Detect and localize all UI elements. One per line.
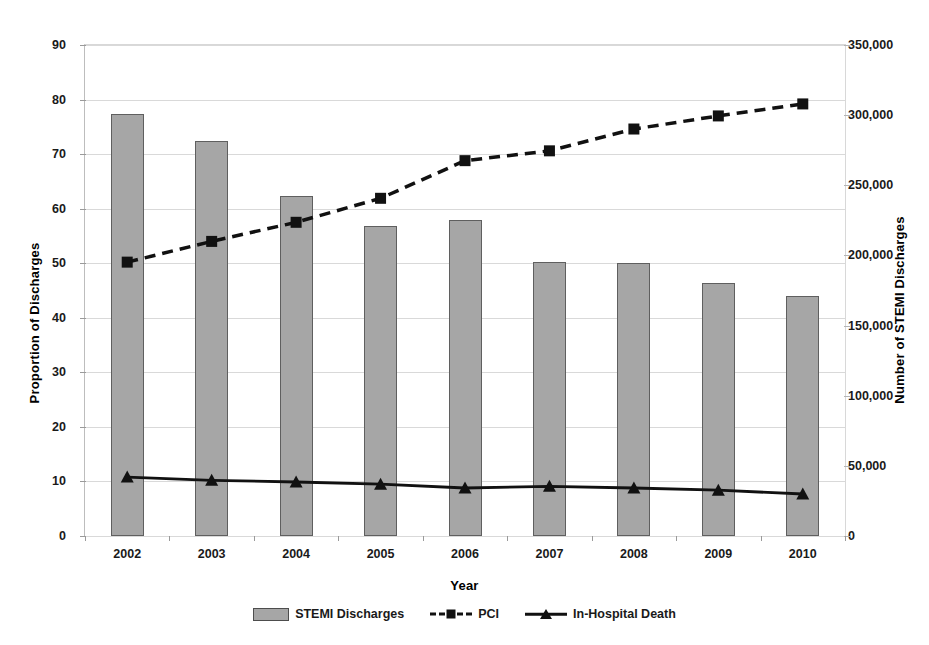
tick-mark-x: [592, 536, 593, 541]
x-axis-title: Year: [0, 578, 929, 593]
tick-mark-x: [169, 536, 170, 541]
y-axis-left-tick-label: 70: [52, 147, 66, 161]
y-axis-left-tick-label: 60: [52, 202, 66, 216]
y-axis-left-tick-label: 90: [52, 38, 66, 52]
y-axis-right-tick-label: 100,000: [848, 389, 893, 403]
square-marker: [797, 98, 808, 109]
plot-area: [84, 44, 846, 537]
bar-swatch-icon: [253, 608, 289, 621]
x-axis-tick-label: 2005: [367, 547, 395, 561]
tick-mark-x: [676, 536, 677, 541]
square-marker: [122, 257, 133, 268]
chart-figure: Proportion of Discharges Number of STEMI…: [0, 0, 929, 645]
legend-label-in-hospital-death: In-Hospital Death: [573, 607, 676, 621]
y-axis-right-tick-label: 300,000: [848, 108, 893, 122]
legend-item-pci: PCI: [430, 607, 499, 621]
square-marker: [460, 155, 471, 166]
square-marker: [713, 110, 724, 121]
x-axis-tick-label: 2003: [198, 547, 226, 561]
tick-mark-x: [423, 536, 424, 541]
y-axis-right-tick-label: 150,000: [848, 319, 893, 333]
legend-item-stemi-discharges: STEMI Discharges: [253, 607, 404, 621]
x-axis-tick-label: 2002: [113, 547, 141, 561]
y-axis-right-tick-label: 250,000: [848, 178, 893, 192]
y-axis-left-tick-label: 0: [59, 529, 66, 543]
x-axis-tick-label: 2009: [704, 547, 732, 561]
y-axis-right-tick-label: 350,000: [848, 38, 893, 52]
x-axis-tick-label: 2007: [536, 547, 564, 561]
y-axis-right-tick-label: 200,000: [848, 248, 893, 262]
y-axis-left-tick-label: 10: [52, 474, 66, 488]
solid-triangle-swatch-icon: [525, 608, 567, 620]
tick-mark-x: [85, 536, 86, 541]
legend-item-in-hospital-death: In-Hospital Death: [525, 607, 676, 621]
square-marker: [291, 217, 302, 228]
x-axis-tick-label: 2010: [789, 547, 817, 561]
x-axis-tick-label: 2008: [620, 547, 648, 561]
tick-mark-x: [507, 536, 508, 541]
x-axis-tick-label: 2006: [451, 547, 479, 561]
dashed-square-swatch-icon: [430, 608, 472, 620]
legend-label-stemi-discharges: STEMI Discharges: [295, 607, 404, 621]
square-marker: [544, 145, 555, 156]
square-marker: [628, 124, 639, 135]
gridline: [85, 536, 845, 537]
y-axis-right-tick-label: 50,000: [848, 459, 886, 473]
tick-mark-x: [845, 536, 846, 541]
y-axis-left-tick-label: 80: [52, 93, 66, 107]
line-series-layer: [85, 45, 845, 536]
line-path: [127, 104, 803, 262]
square-marker: [206, 236, 217, 247]
chart-legend: STEMI Discharges PCI In-Hospital Death: [0, 607, 929, 621]
y-axis-left-tick-label: 40: [52, 311, 66, 325]
square-marker: [375, 193, 386, 204]
x-axis-ticks: 200220032004200520062007200820092010: [0, 547, 929, 569]
y-axis-left-tick-label: 30: [52, 365, 66, 379]
tick-mark-x: [761, 536, 762, 541]
tick-mark-x: [338, 536, 339, 541]
tick-mark-x: [254, 536, 255, 541]
y-axis-left-tick-label: 50: [52, 256, 66, 270]
x-axis-tick-label: 2004: [282, 547, 310, 561]
y-axis-left-tick-label: 20: [52, 420, 66, 434]
legend-label-pci: PCI: [478, 607, 499, 621]
